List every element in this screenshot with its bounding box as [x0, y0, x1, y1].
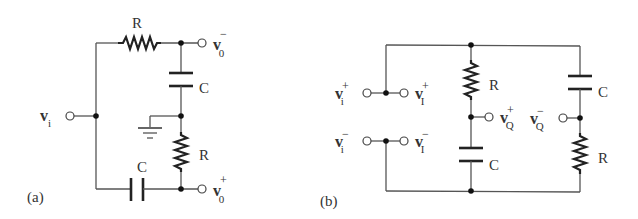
b-right-resistor-icon [574, 133, 586, 174]
a-output-plus-terminal[interactable] [198, 185, 206, 193]
a-input-terminal[interactable] [66, 112, 74, 120]
b-quad-plus-label: v+Q [500, 103, 514, 131]
b-middle-capacitor-label: C [489, 157, 499, 173]
a-right-resistor-icon [175, 132, 187, 172]
b-middle-resistor-icon [465, 60, 477, 100]
b-top-wire [386, 45, 580, 46]
panel-b: v+i v+I v−i v−I R v+Q C [320, 42, 608, 210]
b-middle-resistor-label: R [489, 77, 499, 93]
b-right-resistor-label: R [598, 150, 608, 166]
a-input-label: vi [40, 107, 51, 129]
b-node [468, 114, 474, 120]
panel-a: R C R C vi v−0 [27, 15, 227, 206]
b-input-minus-label: v−i [335, 127, 349, 155]
a-node [178, 186, 184, 192]
a-node [93, 113, 99, 119]
circuit-diagram: R C R C vi v−0 [0, 0, 638, 219]
a-output-minus-label: v−0 [213, 27, 227, 59]
b-node [468, 188, 474, 194]
a-top-resistor-label: R [132, 15, 142, 31]
b-input-minus-terminal[interactable] [363, 137, 371, 145]
panel-a-caption: (a) [27, 189, 44, 206]
b-node [383, 138, 389, 144]
b-inphase-minus-terminal[interactable] [400, 137, 408, 145]
b-input-plus-label: v+i [335, 79, 349, 107]
a-node [178, 40, 184, 46]
a-bottom-capacitor-label: C [137, 159, 147, 175]
b-node [383, 90, 389, 96]
b-node [577, 115, 583, 121]
a-node [178, 113, 184, 119]
a-ground-icon [138, 128, 162, 138]
b-inphase-plus-label: v+I [415, 79, 429, 107]
a-right-resistor-label: R [199, 147, 209, 163]
b-quad-plus-terminal[interactable] [485, 113, 493, 121]
panel-b-caption: (b) [320, 193, 338, 210]
b-inphase-plus-terminal[interactable] [400, 89, 408, 97]
b-node [468, 42, 474, 48]
b-quad-minus-label: v−Q [530, 104, 544, 132]
b-input-plus-terminal[interactable] [363, 89, 371, 97]
a-top-resistor-icon [118, 37, 161, 49]
a-output-minus-terminal[interactable] [198, 39, 206, 47]
a-right-capacitor-label: C [199, 80, 209, 96]
b-quad-minus-terminal[interactable] [559, 114, 567, 122]
a-output-plus-label: v+0 [213, 173, 227, 205]
b-bottom-wire [386, 191, 580, 192]
b-right-capacitor-label: C [598, 84, 608, 100]
b-inphase-minus-label: v−I [415, 127, 429, 155]
